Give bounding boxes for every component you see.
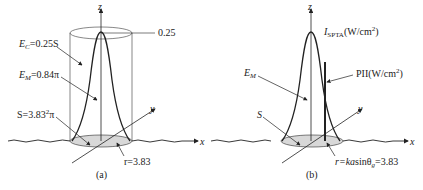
em-label: EM=0.84π xyxy=(18,69,59,82)
s-label: S xyxy=(257,109,262,120)
caption-b: (b) xyxy=(306,169,318,181)
ispta-label: ISPTA(W/cm2) xyxy=(323,25,379,39)
z-axis-label: z xyxy=(97,1,102,12)
z-axis-label: z xyxy=(307,1,312,12)
x-axis-label: x xyxy=(409,136,415,147)
panel-a: z y x 0.25 EC=0.25S EM=0.84π S=3.832π r=… xyxy=(8,1,205,181)
pii-label: PII(W/cm2) xyxy=(356,67,403,80)
s-label: S=3.832π xyxy=(17,108,54,120)
panel-b: z y x ISPTA(W/cm2) PII(W/cm2) EM S r=kas… xyxy=(211,1,415,181)
beam-diagram: z y x 0.25 EC=0.25S EM=0.84π S=3.832π r=… xyxy=(0,0,423,190)
x-axis-label: x xyxy=(199,136,205,147)
base-disk xyxy=(281,135,343,147)
caption-a: (a) xyxy=(96,169,107,181)
ec-label: EC=0.25S xyxy=(18,38,58,51)
em-label: EM xyxy=(243,67,257,80)
r-label: r=kasinθg=3.83 xyxy=(335,156,398,169)
r-label: r=3.83 xyxy=(124,156,150,167)
y-axis-label: y xyxy=(149,103,155,114)
y-axis-label: y xyxy=(357,103,363,114)
peak-value-label: 0.25 xyxy=(158,27,176,38)
